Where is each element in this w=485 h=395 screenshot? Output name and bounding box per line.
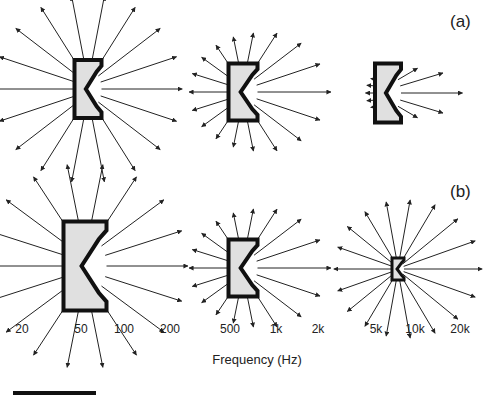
panel-label-a: (a) — [450, 12, 471, 32]
speaker-a-3 — [365, 64, 462, 123]
radiation-arrow — [401, 205, 435, 263]
radiation-arrow — [101, 57, 177, 82]
speaker-a-2 — [189, 33, 331, 151]
radiation-arrow — [365, 276, 395, 327]
speaker-cabinet — [229, 240, 258, 297]
radiation-arrow — [386, 202, 397, 262]
x-tick-label: 20k — [450, 322, 469, 336]
speaker-cabinet — [75, 60, 102, 118]
radiation-arrow — [192, 275, 229, 287]
speaker-b-2 — [189, 209, 331, 327]
speaker-cabinet — [392, 258, 404, 280]
radiation-arrow — [0, 231, 65, 256]
radiation-arrow — [404, 272, 476, 297]
radiation-arrow — [254, 281, 301, 317]
speaker-cabinet — [375, 64, 401, 123]
x-tick-label: 50 — [74, 322, 87, 336]
radiation-arrow — [101, 96, 177, 121]
radiation-arrow — [98, 102, 160, 150]
speaker-a-1 — [0, 0, 182, 182]
speaker-b-3 — [334, 200, 482, 338]
radiation-arrow — [404, 241, 476, 266]
radiation-arrow — [0, 277, 65, 302]
x-tick-label: 1k — [270, 322, 283, 336]
radiation-arrow — [16, 28, 78, 76]
x-tick-label: 200 — [160, 322, 180, 336]
x-tick-label: 5k — [370, 322, 383, 336]
x-tick-label: 10k — [405, 322, 424, 336]
radiation-arrow — [257, 240, 320, 261]
speaker-cabinet — [229, 64, 258, 121]
radiation-arrow — [254, 43, 301, 79]
radiation-arrow — [192, 250, 229, 262]
x-axis-title: Frequency (Hz) — [212, 352, 302, 367]
radiation-arrow — [257, 275, 320, 296]
radiation-arrow — [254, 105, 301, 141]
radiation-arrow — [257, 99, 320, 120]
x-tick-label: 2k — [312, 322, 325, 336]
speaker-cabinet — [64, 222, 107, 311]
radiation-arrow — [98, 28, 160, 76]
radiation-arrow — [0, 57, 75, 82]
radiation-arrow — [192, 74, 229, 86]
radiation-arrow — [386, 277, 397, 337]
scale-bar — [13, 391, 96, 395]
radiation-arrow — [0, 96, 75, 121]
panel-label-b: (b) — [450, 182, 471, 202]
x-tick-label: 20 — [15, 322, 28, 336]
radiation-arrow — [257, 64, 320, 85]
speaker-b-1 — [0, 165, 188, 368]
radiation-arrow — [365, 212, 395, 263]
radiation-arrow — [254, 219, 301, 255]
radiation-arrow — [192, 99, 229, 111]
radiation-arrow — [16, 102, 78, 150]
speakers-layer — [0, 0, 482, 367]
x-tick-label: 500 — [220, 322, 240, 336]
radiation-arrow — [399, 200, 410, 262]
x-tick-label: 100 — [114, 322, 134, 336]
